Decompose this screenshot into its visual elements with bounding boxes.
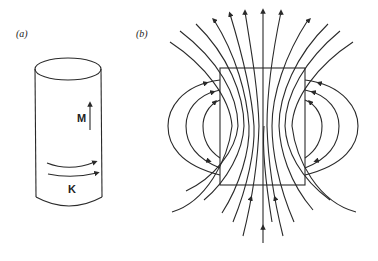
surface-current-arrows-icon — [47, 162, 97, 176]
magnetized-cylinder — [35, 58, 102, 206]
diagram-canvas — [0, 0, 378, 261]
field-lines — [168, 11, 358, 243]
